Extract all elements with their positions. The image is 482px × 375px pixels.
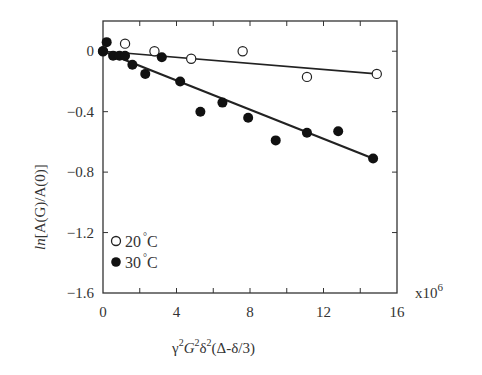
data-point-20c bbox=[238, 47, 247, 56]
fit-lines bbox=[103, 51, 377, 158]
x-tick-label: 4 bbox=[173, 304, 181, 320]
data-point-30c bbox=[157, 52, 167, 62]
y-tick-label: −0.8 bbox=[67, 164, 94, 180]
tick-labels: 04812160−0.4−0.8−1.2−1.6 bbox=[67, 43, 405, 320]
data-point-20c bbox=[302, 72, 311, 81]
y-tick-label: 0 bbox=[87, 43, 95, 59]
x-tick-label: 8 bbox=[246, 304, 254, 320]
data-point-30c bbox=[102, 37, 112, 47]
data-point-20c bbox=[372, 69, 381, 78]
data-point-30c bbox=[120, 51, 130, 61]
data-point-20c bbox=[120, 39, 129, 48]
x-tick-label: 12 bbox=[316, 304, 331, 320]
fit-line-30c bbox=[103, 51, 373, 158]
data-point-30c bbox=[243, 113, 253, 123]
legend-marker-20c bbox=[112, 237, 121, 246]
x-tick-label: 0 bbox=[99, 304, 107, 320]
x-tick-label: 16 bbox=[390, 304, 406, 320]
scatter-chart: 04812160−0.4−0.8−1.2−1.6 20°C 30°C x106 … bbox=[0, 0, 482, 375]
data-point-30c bbox=[195, 107, 205, 117]
legend: 20°C 30°C bbox=[111, 231, 157, 271]
axis-ticks bbox=[103, 21, 397, 293]
data-point-20c bbox=[150, 47, 159, 56]
x-multiplier: x106 bbox=[415, 281, 444, 301]
legend-marker-30c bbox=[111, 257, 121, 267]
data-point-20c bbox=[187, 54, 196, 63]
data-point-30c bbox=[127, 60, 137, 70]
legend-label-30c: 30°C bbox=[125, 252, 158, 271]
data-point-30c bbox=[175, 76, 185, 86]
legend-label-20c: 20°C bbox=[125, 231, 158, 250]
plot-border bbox=[103, 21, 397, 293]
data-point-30c bbox=[368, 154, 378, 164]
x-axis-title: γ2G2δ2(Δ-δ/3) bbox=[171, 337, 255, 357]
y-axis-title: ln[A(G)/A(0)] bbox=[32, 164, 49, 250]
data-point-30c bbox=[217, 98, 227, 108]
data-point-30c bbox=[333, 126, 343, 136]
data-point-30c bbox=[271, 135, 281, 145]
y-tick-label: −1.6 bbox=[67, 285, 95, 301]
y-tick-label: −0.4 bbox=[67, 104, 95, 120]
plot-frame bbox=[103, 21, 397, 293]
data-point-30c bbox=[302, 128, 312, 138]
y-tick-label: −1.2 bbox=[67, 225, 94, 241]
data-point-30c bbox=[98, 46, 108, 56]
data-point-30c bbox=[140, 69, 150, 79]
